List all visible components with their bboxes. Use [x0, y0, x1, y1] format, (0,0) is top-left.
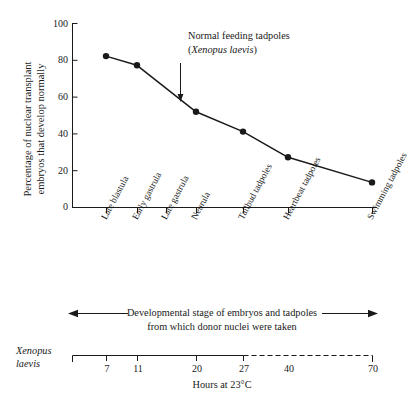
secondary-axis-species-line2: laevis	[16, 358, 51, 371]
annotation-species-name: Xenopus laevis	[191, 44, 253, 55]
data-point-neurula[interactable]	[193, 109, 199, 115]
x-axis-caption-line1: Developmental stage of embryos and tadpo…	[66, 306, 378, 320]
hours-tick-label-70: 70	[358, 364, 388, 374]
hours-tick-label-40: 40	[274, 364, 304, 374]
annotation-paren-close: )	[254, 44, 257, 55]
hours-tick-label-27: 27	[229, 364, 259, 374]
data-line	[106, 56, 372, 182]
secondary-axis-species-label: Xenopus laevis	[16, 345, 51, 370]
data-point-late-blastula[interactable]	[103, 53, 109, 59]
annotation-normal-feeding-tadpoles: Normal feeding tadpoles (Xenopus laevis)	[188, 29, 290, 56]
hours-tick-label-7: 7	[92, 364, 122, 374]
data-point-early-gastrula[interactable]	[134, 62, 140, 68]
data-point-tailbud-tadpoles[interactable]	[240, 128, 246, 134]
hours-tick-label-20: 20	[182, 364, 212, 374]
secondary-axis-species-line1: Xenopus	[16, 345, 51, 358]
x-axis-caption: Developmental stage of embryos and tadpo…	[66, 306, 378, 334]
data-point-swimming-tadpoles[interactable]	[369, 179, 375, 185]
data-point-heartbeat-tadpoles[interactable]	[285, 154, 291, 160]
annotation-line2: (Xenopus laevis)	[188, 43, 290, 57]
hours-tick-label-11: 11	[123, 364, 153, 374]
data-points	[103, 53, 375, 186]
annotation-line1: Normal feeding tadpoles	[188, 29, 290, 43]
hours-tick-marks	[107, 356, 244, 362]
annotation-arrow	[178, 63, 184, 102]
hours-axis	[73, 356, 373, 363]
hours-axis-title: Hours at 23°C	[66, 379, 378, 390]
x-axis-caption-line2: from which donor nuclei were taken	[66, 320, 378, 334]
y-tick-marks	[73, 24, 78, 171]
